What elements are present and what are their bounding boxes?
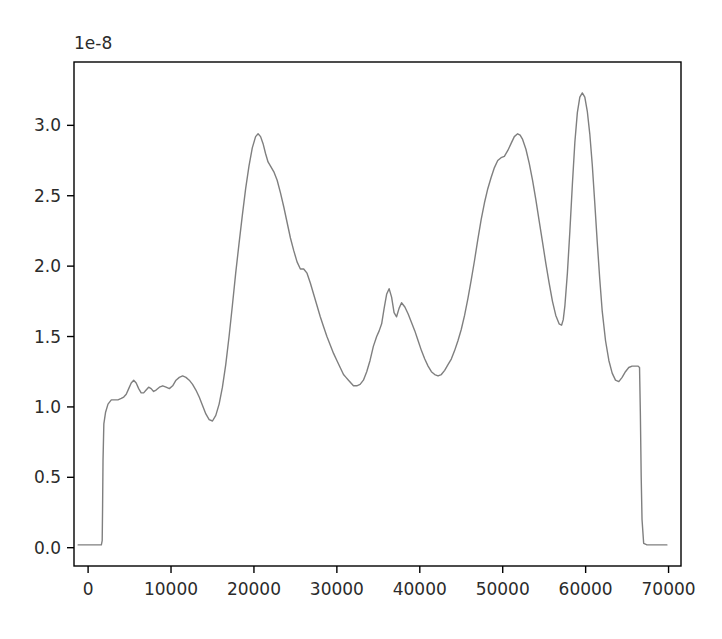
- x-axis-tick-label: 50000: [476, 579, 530, 599]
- data-series-line: [78, 93, 667, 545]
- y-axis-tick-label: 2.5: [0, 186, 61, 206]
- x-axis-tick-label: 10000: [144, 579, 198, 599]
- x-axis-tick-label: 30000: [310, 579, 364, 599]
- x-axis-tick-label: 20000: [227, 579, 281, 599]
- y-axis-tick-label: 2.0: [0, 256, 61, 276]
- y-axis-tick-label: 1.0: [0, 397, 61, 417]
- x-axis-tick-label: 0: [83, 579, 94, 599]
- x-axis-tick-label: 70000: [642, 579, 696, 599]
- line-chart-plot: [0, 0, 722, 639]
- y-axis-tick-label: 3.0: [0, 115, 61, 135]
- axis-ticks-group: [67, 125, 669, 573]
- y-axis-tick-label: 0.5: [0, 467, 61, 487]
- x-axis-tick-label: 40000: [393, 579, 447, 599]
- y-axis-tick-label: 0.0: [0, 538, 61, 558]
- x-axis-tick-label: 60000: [559, 579, 613, 599]
- figure-canvas: 1e-8 0.00.51.01.52.02.53.0 0100002000030…: [0, 0, 722, 639]
- y-axis-tick-label: 1.5: [0, 327, 61, 347]
